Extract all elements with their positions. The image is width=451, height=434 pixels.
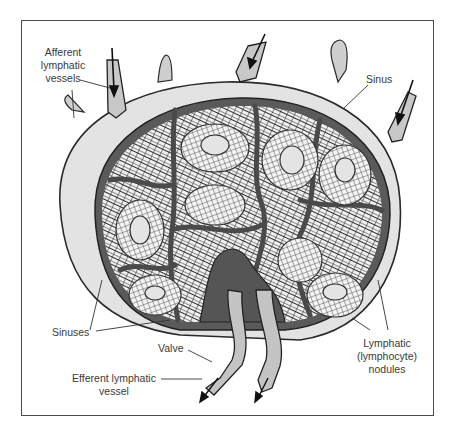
label-afferent-lymphatic-vessels: Afferent lymphatic vessels [33, 46, 93, 85]
label-sinus: Sinus [366, 73, 392, 86]
label-lymphatic-nodules: Lymphatic (lymphocyte) nodules [354, 337, 420, 376]
label-efferent-lymphatic-vessel: Efferent lymphatic vessel [66, 372, 162, 398]
label-sinuses: Sinuses [52, 326, 89, 339]
label-valve: Valve [158, 342, 184, 355]
